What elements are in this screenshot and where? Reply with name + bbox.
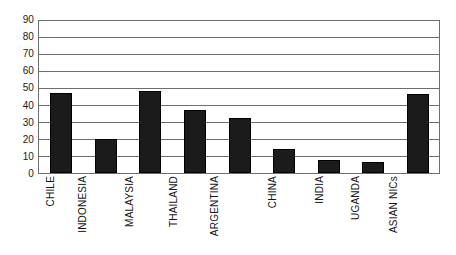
x-tick-label-uganda: UGANDA (350, 176, 361, 220)
bar-slot (217, 21, 262, 173)
x-tick-label-china: CHINA (267, 176, 278, 208)
bar-slot (128, 21, 173, 173)
bar-chart-figure: 90 80 70 60 50 40 30 20 10 0 (0, 0, 456, 255)
bars-layer (39, 21, 439, 173)
x-tick-label-argentina: ARGENTINA (209, 176, 220, 236)
x-label-slot: ARGENTINA (216, 176, 261, 255)
x-tick-label-asian-nics: ASIAN NICs (389, 176, 400, 233)
y-tick-label: 90 (0, 14, 34, 25)
bar-uganda (362, 162, 384, 172)
x-tick-label-malaysia: MALAYSIA (124, 176, 135, 227)
bar-slot (351, 21, 396, 173)
x-label-slot: ASIAN NICs (395, 176, 440, 255)
y-tick-label: 0 (0, 168, 34, 179)
bar-slot (173, 21, 218, 173)
bar-china (273, 149, 295, 173)
x-label-slot: INDIA (306, 176, 351, 255)
y-axis: 90 80 70 60 50 40 30 20 10 0 (0, 14, 34, 180)
x-tick-label-chile: CHILE (45, 176, 56, 206)
y-tick-label: 10 (0, 151, 34, 162)
bar-chile (50, 93, 72, 172)
y-tick-label: 40 (0, 100, 34, 111)
y-tick-label: 30 (0, 117, 34, 128)
x-tick-label-thailand: THAILAND (169, 176, 180, 227)
x-label-slot: MALAYSIA (127, 176, 172, 255)
x-label-slot: INDONESIA (83, 176, 128, 255)
y-tick-label: 80 (0, 31, 34, 42)
bar-thailand (184, 110, 206, 172)
bar-slot (262, 21, 307, 173)
bar-slot (396, 21, 441, 173)
bar-indonesia (95, 139, 117, 173)
x-tick-label-india: INDIA (314, 176, 325, 204)
bar-malaysia (139, 91, 161, 172)
x-label-slot: CHINA (261, 176, 306, 255)
bar-india (318, 160, 340, 173)
plot-area (38, 20, 440, 174)
x-axis-labels: CHILE INDONESIA MALAYSIA THAILAND ARGENT… (38, 176, 440, 255)
bar-slot (307, 21, 352, 173)
bar-slot (84, 21, 129, 173)
y-tick-label: 20 (0, 134, 34, 145)
y-tick-label: 70 (0, 48, 34, 59)
x-tick-label-indonesia: INDONESIA (76, 176, 87, 233)
y-tick-label: 60 (0, 65, 34, 76)
bar-slot (39, 21, 84, 173)
bar-argentina (229, 118, 251, 172)
y-tick-label: 50 (0, 82, 34, 93)
bar-asian-nics (407, 94, 429, 173)
